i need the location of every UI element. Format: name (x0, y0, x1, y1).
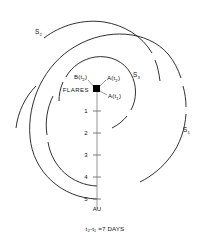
spiral-s1-arc-main (30, 34, 168, 199)
label-a-t2: A(t2) (107, 74, 120, 83)
leader-a-t1 (100, 91, 107, 95)
label-s3: S3 (133, 71, 140, 80)
label-s2: S2 (35, 28, 42, 37)
spiral-s2-arc-main (48, 142, 97, 186)
spiral-s3-arc-dash-a (112, 116, 127, 128)
spiral-s1-arc-tail (140, 156, 171, 182)
spiral-s2 (16, 21, 160, 186)
spiral-s1 (30, 34, 186, 199)
spiral-diagram-figure: 1 2 3 4 5 AU FLARES B(t2) A(t2) (0, 0, 210, 244)
au-tick-label-4: 4 (84, 174, 88, 180)
au-unit-label: AU (93, 206, 102, 212)
spiral-s1-arc-dash-a (168, 54, 181, 78)
label-s1-text: S1 (183, 126, 190, 135)
label-b-t2: B(t2) (74, 73, 87, 82)
figure-caption: t₂-t₁ =7 DAYS (86, 225, 125, 232)
flares-label: FLARES (63, 87, 89, 93)
spiral-s2-arc-dash-a (46, 96, 53, 135)
flare-source (88, 80, 107, 95)
au-axis: 1 2 3 4 5 AU (84, 88, 101, 212)
au-tick-label-3: 3 (84, 152, 88, 158)
au-tick-label-5: 5 (84, 196, 88, 202)
au-tick-label-1: 1 (84, 108, 88, 114)
label-s2-text: S2 (35, 28, 42, 37)
spiral-s1-arc-dash-b (183, 86, 186, 107)
label-a-t2-text: A(t2) (107, 74, 120, 83)
diagram-canvas: 1 2 3 4 5 AU FLARES B(t2) A(t2) (0, 0, 210, 244)
label-s3-text: S3 (133, 71, 140, 80)
label-a-t1: A(t1) (108, 92, 121, 101)
spiral-s3-arc-main (66, 57, 136, 110)
spiral-s1-arc-dash-c (171, 114, 186, 156)
leader-a-t2 (99, 80, 106, 87)
label-a-t1-text: A(t1) (108, 92, 121, 101)
flare-marker-square (93, 85, 100, 92)
spiral-s2-arc-dash-c (155, 60, 160, 81)
spiral-s2-arc-dash-b (16, 86, 36, 128)
label-s1: S1 (183, 126, 190, 135)
au-tick-label-2: 2 (84, 130, 88, 136)
label-b-t2-text: B(t2) (74, 73, 87, 82)
